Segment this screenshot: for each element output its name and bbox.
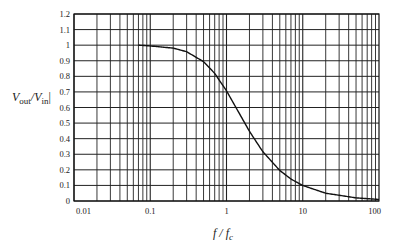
x-tick-label: 100 — [368, 206, 381, 216]
y-tick-label: 0.7 — [59, 87, 70, 97]
y-tick-label: 0.9 — [59, 56, 70, 66]
y-tick-label: 1 — [66, 40, 70, 50]
x-tick-label: 0.01 — [76, 206, 91, 216]
grid — [74, 14, 379, 201]
x-tick-label: 1 — [224, 206, 228, 216]
y-tick-label: 0.3 — [59, 149, 70, 159]
response-curve — [138, 45, 379, 199]
chart-plot: 00.10.20.30.40.50.60.70.80.911.11.2 0.01… — [0, 0, 395, 248]
y-tick-label: 0.2 — [59, 165, 70, 175]
y-tick-label: 0.5 — [59, 118, 70, 128]
y-tick-label: 1.2 — [59, 9, 70, 19]
y-tick-label: 0 — [66, 196, 70, 206]
y-tick-label: 0.8 — [59, 71, 70, 81]
x-axis-ticks: 0.010.1110100 — [76, 206, 381, 216]
y-tick-label: 0.6 — [59, 103, 70, 113]
y-tick-label: 0.4 — [59, 134, 70, 144]
y-axis-label: Vout/Vin| — [12, 90, 51, 106]
x-axis-label: f / fc — [213, 226, 233, 242]
y-tick-label: 1.1 — [59, 25, 70, 35]
y-tick-label: 0.1 — [59, 180, 70, 190]
x-tick-label: 10 — [299, 206, 308, 216]
y-axis-ticks: 00.10.20.30.40.50.60.70.80.911.11.2 — [59, 9, 70, 206]
x-tick-label: 0.1 — [145, 206, 156, 216]
